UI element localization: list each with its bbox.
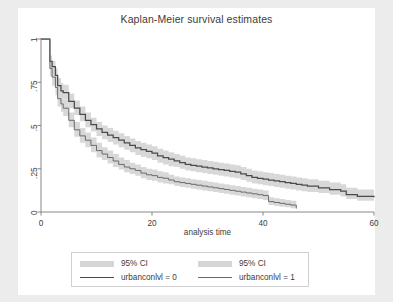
legend-band-swatch	[80, 261, 114, 267]
y-tick-label: .25	[30, 167, 39, 197]
x-tick-label: 40	[251, 219, 275, 228]
legend-line-swatch	[80, 277, 114, 278]
legend-label: 95% CI	[121, 257, 148, 270]
chart-legend: 95% CI95% CIurbanconlvl = 0urbanconlvl =…	[71, 252, 309, 287]
y-axis-ticks: 0.25.5.751	[0, 0, 34, 302]
x-axis-label: analysis time	[40, 228, 375, 237]
legend-label: 95% CI	[239, 257, 266, 270]
chart-title: Kaplan-Meier survival estimates	[18, 13, 375, 25]
legend-line-swatch	[198, 277, 232, 278]
y-tick-label: .75	[30, 81, 39, 111]
x-tick-label: 60	[362, 219, 386, 228]
plot-layer	[41, 39, 374, 212]
legend-label: urbanconlvl = 0	[121, 271, 177, 284]
legend-band-swatch	[198, 261, 232, 267]
x-tick-label: 0	[29, 219, 53, 228]
y-tick-label: 1	[30, 38, 39, 68]
x-tick-label: 20	[140, 219, 164, 228]
legend-label: urbanconlvl = 1	[239, 271, 295, 284]
y-tick-label: .5	[30, 124, 39, 154]
